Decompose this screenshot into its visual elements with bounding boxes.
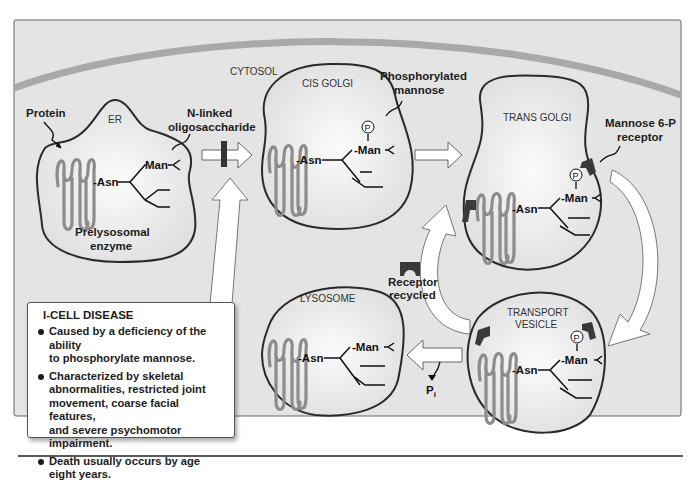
phosphate-label: P xyxy=(365,123,371,133)
protein-annotation: Protein xyxy=(26,107,66,119)
man-label: -Man xyxy=(354,144,381,156)
bullet-text: Death usually occurs by age xyxy=(49,455,200,467)
info-bullet-list: Caused by a deficiency of the ability to… xyxy=(38,325,226,482)
lysosome-compartment: LYSOSOME -Asn -Man xyxy=(262,287,404,415)
cytosol-label: CYTOSOL xyxy=(230,66,278,77)
bullet-text: Characterized by skeletal xyxy=(49,370,183,382)
transport-label-1: TRANSPORT xyxy=(507,307,569,318)
phosphate-label: P xyxy=(573,171,579,181)
info-bullet: Characterized by skeletal abnormalities,… xyxy=(38,370,226,451)
er-label: ER xyxy=(108,114,122,125)
bullet-icon xyxy=(38,459,44,465)
phosphorylated-annotation-2: mannose xyxy=(394,84,445,96)
n-linked-annotation-2: oligosaccharide xyxy=(168,121,256,133)
info-box-title: I-CELL DISEASE xyxy=(43,309,226,321)
m6p-annotation-2: receptor xyxy=(617,131,664,143)
man-label: Man xyxy=(145,159,168,171)
phosphorylated-annotation-1: Phosphorylated xyxy=(380,70,467,82)
man-label: -Man xyxy=(561,192,588,204)
transport-vesicle-compartment: TRANSPORT VESICLE -Asn -Man P xyxy=(468,293,605,433)
bullet-text: movement, coarse facial features, xyxy=(49,397,179,423)
bullet-text: Caused by a deficiency of the ability xyxy=(49,325,206,351)
bullet-icon xyxy=(38,374,44,380)
man-label: -Man xyxy=(561,354,588,366)
trans-golgi-label: TRANS GOLGI xyxy=(503,112,571,123)
bullet-text: abnormalities, restricted joint xyxy=(49,383,206,395)
receptor-recycled-annotation-1: Receptor xyxy=(388,276,438,288)
i-cell-disease-info-box: I-CELL DISEASE Caused by a deficiency of… xyxy=(27,302,235,438)
info-bullet: Death usually occurs by age eight years. xyxy=(38,455,226,482)
transport-label-2: VESICLE xyxy=(515,319,558,330)
phosphate-label: P xyxy=(574,333,580,343)
lysosome-label: LYSOSOME xyxy=(300,293,356,304)
cis-golgi-label: CIS GOLGI xyxy=(302,78,353,89)
cis-golgi-compartment: CIS GOLGI -Asn -Man P xyxy=(262,64,413,229)
n-linked-annotation-1: N-linked xyxy=(187,107,232,119)
receptor-recycled-annotation-2: recycled xyxy=(389,289,436,301)
bullet-text: and severe psychomotor impairment. xyxy=(49,424,181,450)
bullet-icon xyxy=(38,329,44,335)
m6p-annotation-1: Mannose 6-P xyxy=(605,117,676,129)
asn-label: -Asn xyxy=(93,176,119,188)
man-label: -Man xyxy=(352,341,379,353)
asn-label: -Asn xyxy=(512,203,538,215)
prelysosomal-label: Prelysosomal xyxy=(75,226,150,238)
asn-label: -Asn xyxy=(296,154,322,166)
info-bullet: Caused by a deficiency of the ability to… xyxy=(38,325,226,366)
bullet-text: to phosphorylate mannose. xyxy=(49,352,195,364)
trans-golgi-compartment: TRANS GOLGI -Asn -Man P xyxy=(462,75,601,269)
asn-label: -Asn xyxy=(512,364,538,376)
bullet-text: eight years. xyxy=(49,468,111,480)
asn-label: -Asn xyxy=(298,352,324,364)
enzyme-label: enzyme xyxy=(90,240,132,252)
